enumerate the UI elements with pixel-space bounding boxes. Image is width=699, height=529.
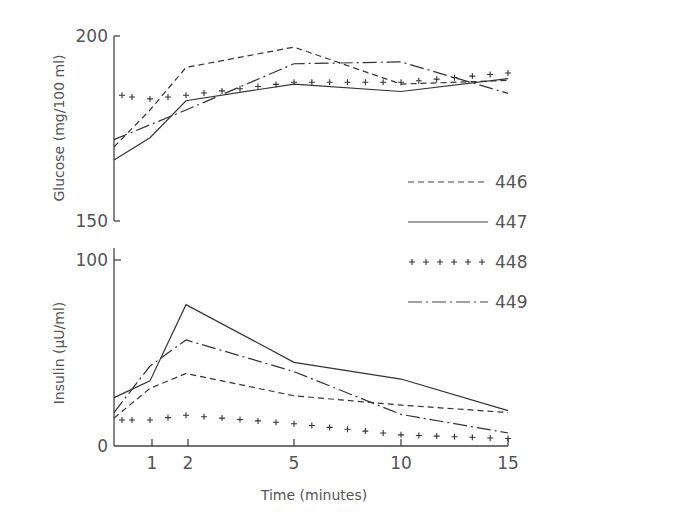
series-447-bottom <box>114 305 508 411</box>
glucose-insulin-chart: 200 150 Glucose (mg/100 ml) 100 0 Insuli… <box>0 0 699 529</box>
time-tick-15: 15 <box>497 453 519 473</box>
series-layer <box>114 47 511 441</box>
legend <box>408 182 488 302</box>
glucose-y-axis <box>114 36 120 221</box>
time-axis-label: Time (minutes) <box>260 487 367 503</box>
series-449-top <box>114 62 508 140</box>
legend-label-449: 449 <box>495 292 527 312</box>
time-tick-10: 10 <box>390 453 412 473</box>
time-tick-5: 5 <box>289 453 300 473</box>
legend-swatch-448 <box>409 259 485 265</box>
glucose-axis-label: Glucose (mg/100 ml) <box>51 54 67 201</box>
series-447-top <box>114 79 508 160</box>
series-446-bottom <box>114 373 508 418</box>
series-446-top <box>114 47 508 147</box>
legend-label-446: 446 <box>495 172 527 192</box>
insulin-y-axis <box>114 248 508 446</box>
time-tick-1: 1 <box>147 453 158 473</box>
legend-label-447: 447 <box>495 212 527 232</box>
series-449-bottom <box>114 340 508 433</box>
insulin-axis-label: Insulin (μU/ml) <box>51 302 67 405</box>
legend-label-448: 448 <box>495 252 527 272</box>
glucose-tick-150: 150 <box>76 211 108 231</box>
insulin-tick-0: 0 <box>97 436 108 456</box>
insulin-tick-100: 100 <box>76 250 108 270</box>
glucose-tick-200: 200 <box>76 26 108 46</box>
series-448-bottom <box>119 412 511 441</box>
time-tick-2: 2 <box>183 453 194 473</box>
